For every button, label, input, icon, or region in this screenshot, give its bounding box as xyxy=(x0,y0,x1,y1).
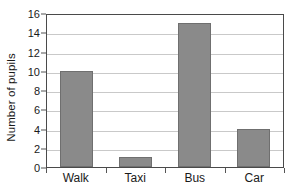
bar-car xyxy=(237,129,270,168)
bars-layer xyxy=(47,15,283,167)
y-axis-tick-mark xyxy=(41,71,46,72)
x-axis-tick-mark xyxy=(284,168,285,173)
bar-taxi xyxy=(119,157,152,167)
y-axis-tick-label: 0 xyxy=(34,163,40,174)
y-axis-tick-mark xyxy=(41,168,46,169)
y-axis-tick-mark xyxy=(41,148,46,149)
bar-walk xyxy=(60,71,93,167)
y-axis-tick-label: 12 xyxy=(28,47,40,58)
y-axis-tick-mark xyxy=(41,14,46,15)
bar-slot xyxy=(47,15,106,167)
y-axis-tick-label: 10 xyxy=(28,66,40,77)
bar-slot xyxy=(106,15,165,167)
bar-chart-figure: Number of pupils 0246810121416 WalkTaxiB… xyxy=(0,0,297,195)
y-axis-tick-mark xyxy=(41,91,46,92)
bar-slot xyxy=(224,15,283,167)
x-axis-tick-label-walk: Walk xyxy=(46,172,106,185)
x-axis-tick-label-car: Car xyxy=(225,172,285,185)
x-axis-tick-label-taxi: Taxi xyxy=(106,172,166,185)
bar-bus xyxy=(178,23,211,167)
plot-area xyxy=(46,14,284,168)
y-axis-tick-labels: 0246810121416 xyxy=(20,14,40,168)
y-axis-tick-label: 16 xyxy=(28,9,40,20)
y-axis-tick-mark xyxy=(41,110,46,111)
y-axis-tick-mark xyxy=(41,129,46,130)
bar-slot xyxy=(165,15,224,167)
x-axis-tick-labels: WalkTaxiBusCar xyxy=(46,172,284,185)
y-axis-tick-label: 8 xyxy=(34,86,40,97)
y-axis-tick-label: 4 xyxy=(34,124,40,135)
y-axis-title: Number of pupils xyxy=(0,0,22,195)
y-axis-tick-label: 14 xyxy=(28,28,40,39)
y-axis-tick-label: 2 xyxy=(34,143,40,154)
y-axis-tick-mark xyxy=(41,52,46,53)
y-axis-tick-label: 6 xyxy=(34,105,40,116)
y-axis-tick-mark xyxy=(41,33,46,34)
x-axis-tick-label-bus: Bus xyxy=(165,172,225,185)
